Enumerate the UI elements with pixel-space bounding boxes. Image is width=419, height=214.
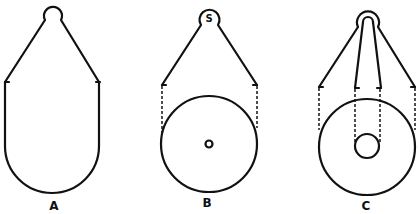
panel-a-outline — [5, 7, 99, 193]
panel-a-label: A — [49, 199, 59, 213]
panel-c: C — [319, 11, 415, 213]
panel-b-center-hole — [206, 141, 213, 148]
diagram-canvas: A S B C — [0, 0, 419, 214]
panel-b-loop-label: S — [205, 13, 212, 24]
panel-c-inner-loop-and-cords — [355, 17, 381, 88]
panel-c-inner-circle — [355, 134, 379, 158]
panel-c-label: C — [362, 199, 371, 213]
panel-b-circle — [161, 96, 257, 192]
panel-c-outer-loop-and-cords — [319, 11, 415, 87]
panel-b-label: B — [202, 196, 211, 210]
panel-a: A — [5, 7, 100, 213]
panel-b: S B — [161, 10, 257, 210]
panel-c-outer-circle — [319, 99, 415, 195]
